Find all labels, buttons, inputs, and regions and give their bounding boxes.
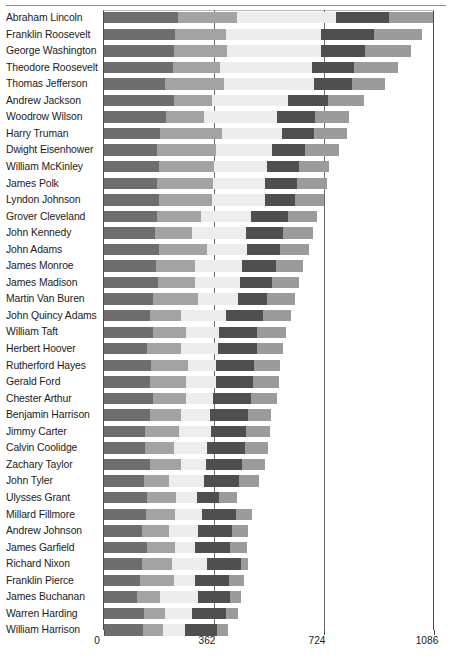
bar-segment (219, 492, 237, 503)
bar-segment (220, 62, 311, 73)
bar-segment (104, 95, 174, 106)
bar-segment (104, 558, 142, 569)
bar-segment (160, 591, 198, 602)
stacked-bar (104, 393, 277, 404)
bar-row: Benjamin Harrison (0, 407, 452, 424)
bar-segment (174, 575, 195, 586)
bar-segment (251, 393, 277, 404)
category-label: John Adams (6, 242, 98, 259)
category-label: George Washington (6, 43, 98, 60)
bar-segment (257, 327, 286, 338)
bar-segment (104, 29, 175, 40)
bar-row: Ulysses Grant (0, 490, 452, 507)
bar-segment (104, 128, 160, 139)
bar-segment (195, 277, 241, 288)
stacked-bar (104, 178, 327, 189)
bar-segment (216, 144, 272, 155)
bar-segment (297, 178, 327, 189)
stacked-bar (104, 78, 385, 89)
bar-segment (150, 310, 182, 321)
bar-segment (159, 194, 212, 205)
stacked-bar (104, 29, 422, 40)
stacked-bar (104, 128, 347, 139)
bar-segment (104, 459, 150, 470)
bar-segment (159, 161, 214, 172)
bar-segment (144, 608, 165, 619)
bar-segment (219, 327, 257, 338)
bar-segment (186, 376, 216, 387)
bar-segment (212, 95, 288, 106)
bar-segment (198, 293, 238, 304)
bar-row: John Quincy Adams (0, 308, 452, 325)
stacked-bar (104, 608, 238, 619)
bar-row: Jimmy Carter (0, 424, 452, 441)
bar-segment (157, 178, 213, 189)
bar-segment (226, 608, 238, 619)
bar-segment (169, 475, 204, 486)
bar-segment (179, 426, 211, 437)
bar-row: Richard Nixon (0, 556, 452, 573)
bar-segment (197, 492, 218, 503)
bar-segment (195, 260, 242, 271)
bar-segment (315, 111, 348, 122)
bar-segment (147, 492, 176, 503)
bar-segment (158, 277, 194, 288)
bar-segment (104, 525, 142, 536)
bar-segment (176, 492, 197, 503)
category-label: Martin Van Buren (6, 291, 98, 308)
stacked-bar (104, 45, 411, 56)
bar-segment (146, 509, 175, 520)
category-label: Herbert Hoover (6, 341, 98, 358)
bar-segment (242, 260, 275, 271)
bar-segment (104, 608, 144, 619)
bar-row: Chester Arthur (0, 391, 452, 408)
stacked-bar (104, 475, 259, 486)
category-label: Millard Fillmore (6, 507, 98, 524)
bar-segment (321, 45, 365, 56)
bar-segment (224, 78, 314, 89)
bar-segment (214, 161, 267, 172)
stacked-bar (104, 442, 268, 453)
bar-segment (207, 442, 245, 453)
header-divider (6, 5, 446, 6)
category-label: Dwight Eisenhower (6, 142, 98, 159)
bar-row: Woodrow Wilson (0, 109, 452, 126)
bar-segment (207, 558, 240, 569)
bar-segment (104, 426, 145, 437)
bar-segment (104, 244, 159, 255)
bar-segment (174, 442, 207, 453)
bar-row: Thomas Jefferson (0, 76, 452, 93)
category-label: Gerald Ford (6, 374, 98, 391)
bar-segment (104, 211, 157, 222)
bar-segment (144, 475, 170, 486)
bar-segment (237, 12, 336, 23)
bar-row: John Adams (0, 242, 452, 259)
bar-segment (104, 360, 151, 371)
bar-row: Calvin Coolidge (0, 440, 452, 457)
bar-segment (104, 310, 150, 321)
x-tick-label: 0 (94, 635, 100, 646)
x-tick-label: 724 (309, 635, 326, 646)
bar-segment (175, 542, 195, 553)
bar-segment (354, 62, 398, 73)
category-label: Jimmy Carter (6, 424, 98, 441)
stacked-bar (104, 293, 295, 304)
bar-segment (374, 29, 421, 40)
stacked-bar (104, 459, 265, 470)
bar-segment (321, 29, 374, 40)
category-label: Grover Cleveland (6, 209, 98, 226)
bar-segment (155, 227, 191, 238)
bar-segment (166, 111, 204, 122)
bar-segment (241, 558, 249, 569)
bar-segment (352, 78, 385, 89)
bar-segment (104, 111, 166, 122)
bar-row: James Madison (0, 275, 452, 292)
bar-segment (188, 360, 217, 371)
bar-segment (232, 525, 249, 536)
stacked-bar (104, 525, 248, 536)
bar-segment (181, 409, 210, 420)
category-label: James Buchanan (6, 589, 98, 606)
bar-segment (192, 227, 247, 238)
stacked-bar (104, 327, 286, 338)
stacked-bar (104, 542, 247, 553)
